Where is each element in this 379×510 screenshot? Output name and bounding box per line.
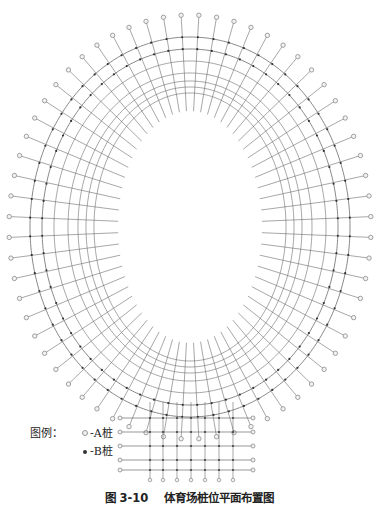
filled-dot-icon	[80, 444, 90, 457]
legend: 图例： -A桩 -B桩	[30, 423, 113, 459]
legend-row-a: 图例： -A桩	[30, 423, 113, 441]
caption-number: 图 3-10	[105, 491, 149, 505]
caption-title: 体育场桩位平面布置图	[164, 491, 274, 505]
legend-label-b: -B桩	[90, 442, 113, 458]
open-circle-icon	[80, 426, 90, 439]
legend-title: 图例：	[30, 424, 80, 440]
figure-caption: 图 3-10 体育场桩位平面布置图	[0, 489, 379, 505]
legend-label-a: -A桩	[90, 424, 113, 440]
legend-row-b: -B桩	[30, 441, 113, 459]
